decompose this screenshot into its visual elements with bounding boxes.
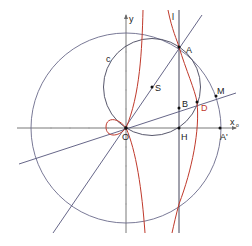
label-S: S [155,83,161,93]
label-D: D [201,103,208,113]
point-D [196,101,199,104]
y-axis-arrow-icon [124,14,128,19]
label-M: M [217,86,225,96]
point-A [177,45,180,48]
point-H [178,127,181,130]
point-A-prime [219,127,222,130]
label-A-prime: A' [220,132,228,142]
point-O [124,126,128,130]
label-B: B [182,99,188,109]
red-curve [106,10,198,233]
point-S [151,86,154,89]
label-O: O [122,132,129,142]
x-axis-label: x [230,117,235,127]
x-axis-sub-label: o [236,122,239,128]
label-A: A [186,45,192,55]
label-H: H [181,132,188,142]
circle-c-label: c [106,54,111,64]
y-axis-label: y [129,14,134,24]
geometry-figure: x o y c l [0,0,252,246]
point-B [178,107,181,110]
line-l-label: l [172,12,174,22]
